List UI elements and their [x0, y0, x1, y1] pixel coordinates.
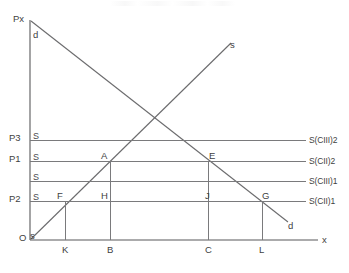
y-axis-label: Px — [13, 14, 24, 24]
demand-curve-label-bottom: d — [288, 221, 293, 231]
quantity-label-b: B — [107, 245, 113, 255]
x-axis-label: x — [322, 235, 327, 245]
price-label-p2: P2 — [9, 194, 21, 204]
s-mark-p1: S — [33, 153, 39, 162]
supply-curve-label-bottom: s — [30, 231, 35, 241]
quantity-label-c: C — [205, 245, 212, 255]
origin-label: O — [19, 233, 26, 243]
price-label-p1: P1 — [9, 154, 21, 164]
series-label-s-ciii-1: S(CIII)1 — [309, 177, 337, 186]
demand-curve-label-top: d — [33, 30, 38, 40]
point-label-e: E — [209, 151, 215, 161]
s-mark-blank: S — [33, 173, 39, 182]
point-label-f: F — [57, 191, 63, 201]
demand-curve — [31, 21, 288, 222]
series-label-s-ciii-2: S(CIII)2 — [309, 136, 337, 145]
s-mark-p2: S — [33, 193, 39, 202]
point-label-g: G — [262, 191, 269, 201]
series-label-s-cii-1: S(CII)1 — [309, 197, 335, 206]
point-label-a: A — [101, 151, 107, 161]
s-mark-p3: S — [33, 132, 39, 141]
price-label-p3: P3 — [9, 133, 21, 143]
supply-curve-label-top: s — [230, 40, 235, 50]
point-label-h: H — [101, 191, 108, 201]
supply-demand-diagram: Px x O d d s s P3 P1 P2 S S S S S(CIII)2… — [0, 0, 349, 273]
point-label-j: J — [205, 191, 210, 201]
quantity-label-l: L — [259, 245, 264, 255]
diagram-canvas — [0, 0, 349, 273]
quantity-label-k: K — [62, 245, 68, 255]
series-label-s-cii-2: S(CII)2 — [309, 157, 335, 166]
